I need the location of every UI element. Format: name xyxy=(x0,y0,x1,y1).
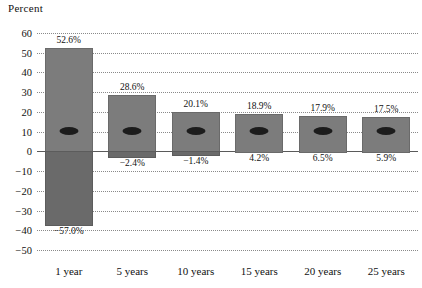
bar-group: 20.1%−1.4% xyxy=(164,33,228,250)
y-axis-tick-label: 0 xyxy=(27,146,32,157)
bar-value-label-top: 52.6% xyxy=(56,35,81,45)
x-axis-category-label: 10 years xyxy=(177,265,214,277)
bar-value-label-top: 20.1% xyxy=(183,99,208,109)
gridline xyxy=(37,250,418,251)
x-axis-category-label: 20 years xyxy=(304,265,341,277)
y-axis-tick-label: 60 xyxy=(22,28,33,39)
y-axis-tick-label: 50 xyxy=(22,47,33,58)
bar-group: 17.9%6.5% xyxy=(291,33,355,250)
bar-positive xyxy=(108,95,156,153)
plot-area: 6050403020100−10−20−30−40−5052.6%−57.0%2… xyxy=(37,33,418,250)
y-axis-tick-label: 10 xyxy=(22,126,33,137)
bar-value-label-top: 18.9% xyxy=(247,101,272,111)
y-axis-tick-label: −40 xyxy=(16,225,32,236)
bar-value-label-top: 28.6% xyxy=(120,82,145,92)
y-axis-tick-label: 20 xyxy=(22,106,33,117)
bar-value-label-bottom: 5.9% xyxy=(376,153,396,163)
average-marker xyxy=(313,127,332,135)
average-marker xyxy=(250,127,269,135)
x-axis-category-label: 1 year xyxy=(55,265,82,277)
bar-positive xyxy=(299,116,347,153)
average-marker xyxy=(123,127,142,135)
bar-value-label-bottom: 4.2% xyxy=(249,153,269,163)
y-axis-tick-label: 40 xyxy=(22,67,33,78)
chart-container: Percent 6050403020100−10−20−30−40−5052.6… xyxy=(0,0,422,288)
y-axis-tick-label: −30 xyxy=(16,205,32,216)
bar-positive xyxy=(45,48,93,154)
average-marker xyxy=(377,127,396,135)
bar-value-label-bottom: −2.4% xyxy=(120,158,145,168)
bar-value-label-top: 17.5% xyxy=(374,104,399,114)
bar-value-label-bottom: −57.0% xyxy=(54,226,84,236)
y-axis-tick-label: −50 xyxy=(16,245,32,256)
x-axis-category-label: 5 years xyxy=(117,265,148,277)
x-axis-category-label: 15 years xyxy=(241,265,278,277)
y-axis-title: Percent xyxy=(8,2,43,14)
bar-group: 17.5%5.9% xyxy=(355,33,419,250)
average-marker xyxy=(59,127,78,135)
bar-value-label-top: 17.9% xyxy=(310,103,335,113)
y-axis-tick-label: 30 xyxy=(22,87,33,98)
average-marker xyxy=(186,127,205,135)
y-axis-tick-label: −20 xyxy=(16,185,32,196)
x-axis-category-label: 25 years xyxy=(368,265,405,277)
bar-value-label-bottom: 6.5% xyxy=(313,153,333,163)
bar-negative xyxy=(45,151,93,226)
bar-group: 52.6%−57.0% xyxy=(37,33,101,250)
bar-positive xyxy=(362,117,410,154)
bar-group: 18.9%4.2% xyxy=(228,33,292,250)
bar-value-label-bottom: −1.4% xyxy=(183,156,208,166)
bar-group: 28.6%−2.4% xyxy=(101,33,165,250)
y-axis-tick-label: −10 xyxy=(16,166,32,177)
bar-negative xyxy=(108,151,156,158)
